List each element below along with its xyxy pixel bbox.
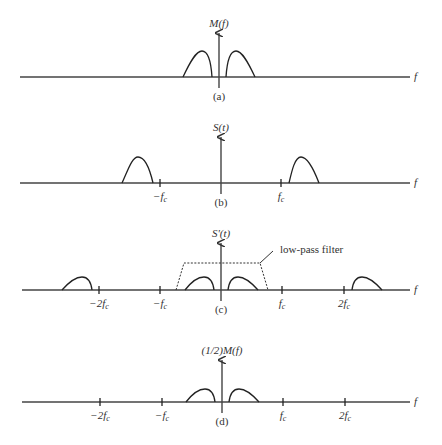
low-pass-filter-label: low-pass filter [280, 243, 344, 255]
tick-label-neg-fc: −fc [153, 190, 167, 204]
y-axis-label: S'(t) [212, 227, 231, 240]
tick-label-2fc: 2fc [339, 409, 352, 423]
x-axis-label: f [414, 176, 419, 188]
tick-label-neg-2fc: −2fc [90, 409, 110, 423]
spectrum-lobe-neg-2fc [62, 277, 92, 290]
panel-caption: (b) [215, 196, 228, 209]
panel-caption: (d) [216, 415, 229, 428]
tick-label-2fc: 2fc [338, 297, 351, 311]
spectrum-lobe-left [186, 389, 215, 402]
panel-b: S(t) f (b) −fc fc [20, 121, 419, 209]
annotation-leader-line [260, 251, 273, 263]
tick-label-neg-2fc: −2fc [89, 297, 109, 311]
spectrum-lobe-baseband-right [228, 277, 258, 290]
x-axis-label: f [414, 70, 419, 82]
spectrum-lobe-right [226, 51, 255, 77]
panel-c: S'(t) f (c) −2fc −fc fc 2fc low-pass fil… [22, 227, 419, 316]
spectrum-lobe-baseband-left [185, 277, 214, 290]
y-axis-label: (1/2)M(f) [202, 344, 243, 357]
spectrum-lobe-2fc [352, 277, 382, 290]
panel-a: M(f) f (a) [20, 17, 419, 103]
panel-caption: (c) [215, 303, 228, 316]
tick-label-neg-fc: −fc [153, 297, 167, 311]
spectrum-lobe-left [183, 51, 212, 77]
y-axis-label: S(t) [213, 121, 229, 134]
spectrum-lobe-right [229, 389, 259, 402]
tick-label-fc: fc [278, 190, 285, 204]
y-axis-label: M(f) [208, 17, 229, 30]
tick-label-neg-fc: −fc [155, 409, 169, 423]
panel-caption: (a) [213, 90, 226, 103]
x-axis-label: f [414, 283, 419, 295]
panel-d: (1/2)M(f) f (d) −2fc −fc fc 2fc [22, 344, 419, 428]
x-axis-label: f [414, 395, 419, 407]
spectrum-lobe-right [289, 157, 319, 183]
spectrum-lobe-left [122, 157, 153, 183]
tick-label-fc: fc [280, 409, 287, 423]
tick-label-fc: fc [279, 297, 286, 311]
modulation-spectrum-diagram: M(f) f (a) S(t) f (b) −fc fc S'(t) f (c)… [0, 0, 442, 445]
